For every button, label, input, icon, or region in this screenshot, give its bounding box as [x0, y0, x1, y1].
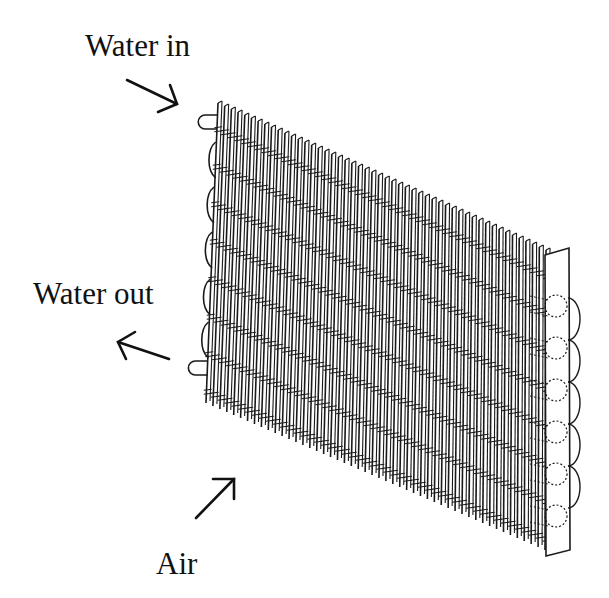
fin	[383, 179, 396, 481]
water-out-arrow-icon	[118, 332, 169, 359]
heat-exchanger-diagram: Water in Water out Air	[0, 0, 609, 598]
tube-stub	[198, 115, 217, 129]
water-in-arrow-icon	[127, 80, 177, 112]
fin-stack	[204, 101, 551, 550]
air-arrow-icon	[196, 479, 234, 518]
water-in-label: Water in	[85, 30, 190, 61]
tube-stub	[188, 361, 207, 375]
water-out-label: Water out	[33, 278, 154, 309]
air-label: Air	[156, 548, 197, 579]
